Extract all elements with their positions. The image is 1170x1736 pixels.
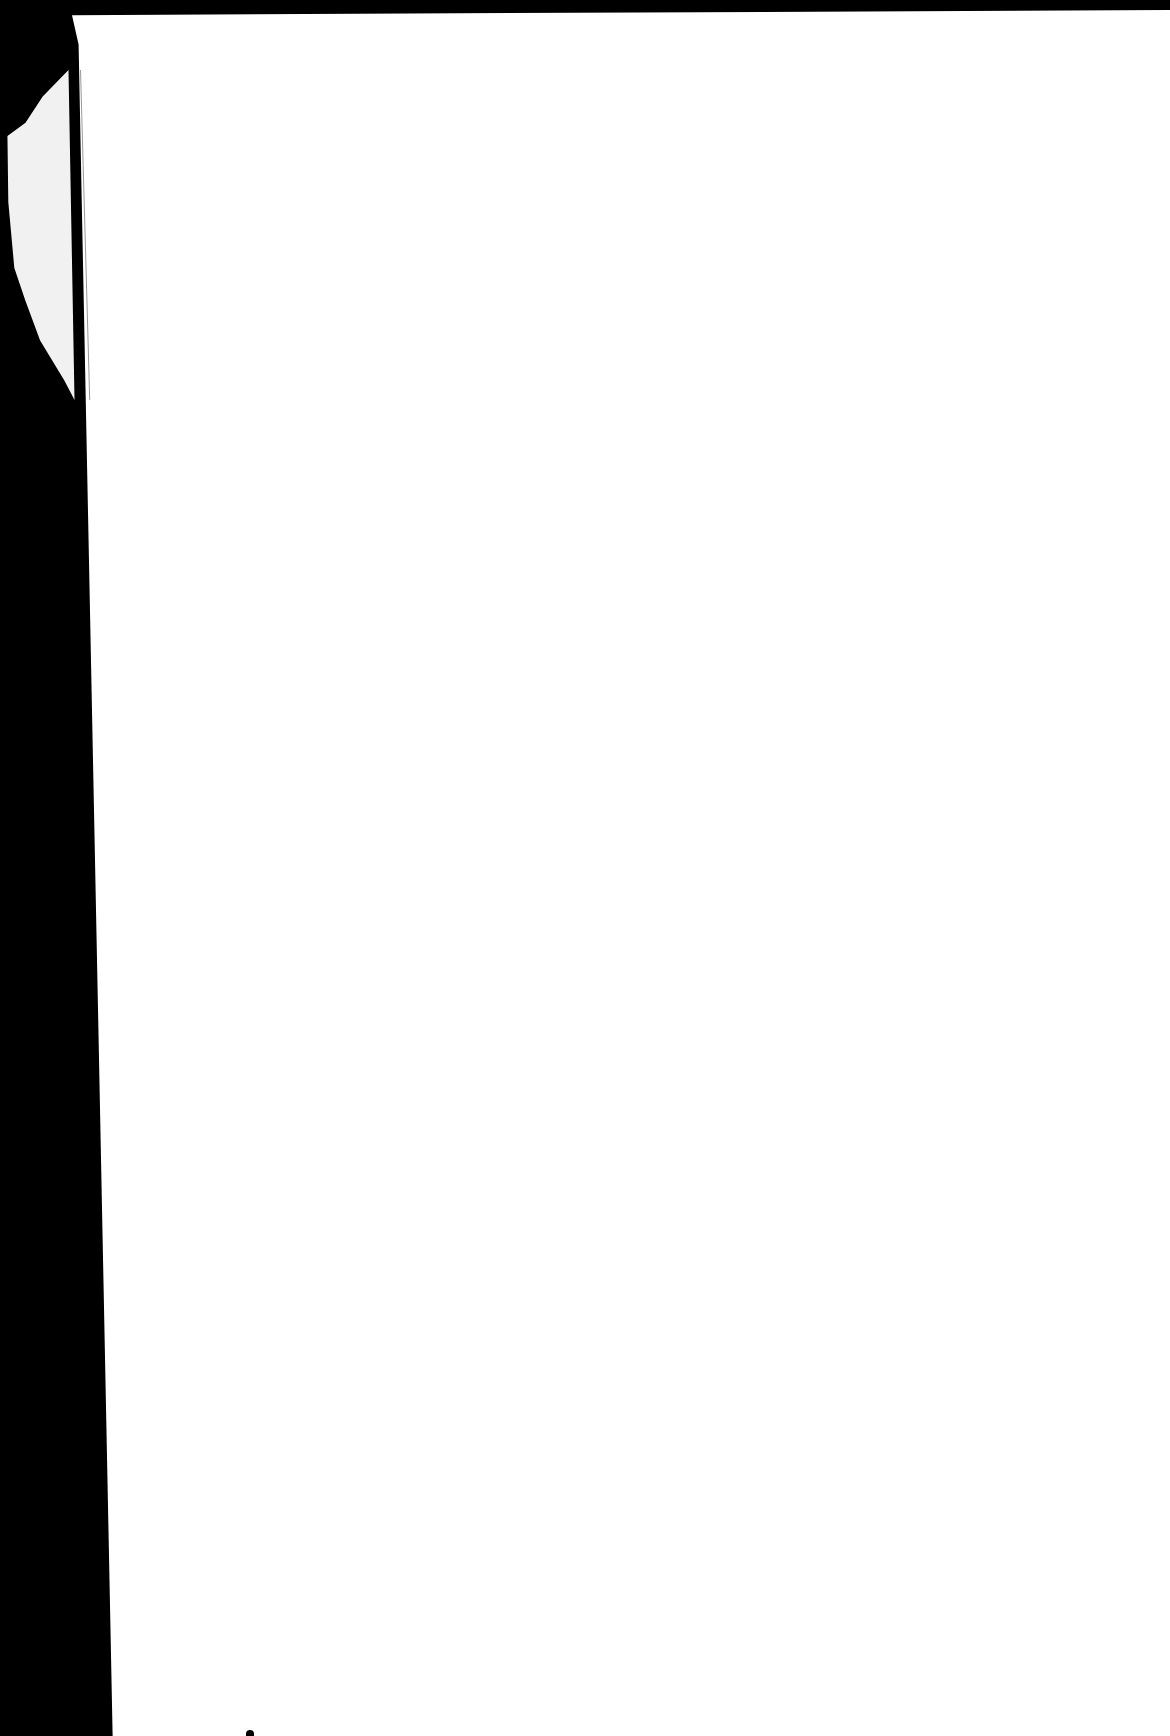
blank-page (72, 10, 1170, 1736)
torn-paper-fragment (4, 70, 90, 400)
scan-artifact (246, 1730, 254, 1736)
